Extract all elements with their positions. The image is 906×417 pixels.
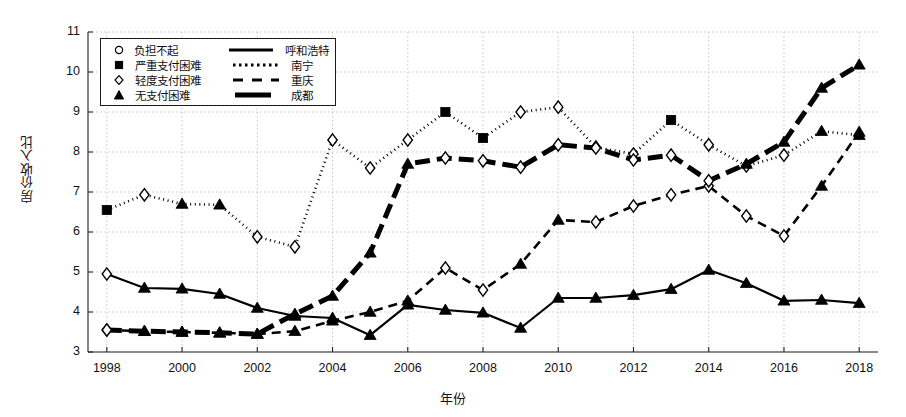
triangle-marker-icon: [112, 89, 126, 101]
data-point-diamond: [102, 268, 111, 280]
y-tick-label: 4: [54, 304, 80, 318]
data-point-diamond: [779, 149, 788, 161]
data-point-square: [478, 133, 487, 142]
legend-linestyle-dashed: [231, 74, 289, 86]
legend-city-label: 呼和浩特: [283, 42, 329, 58]
legend-marker-diamond: [109, 74, 129, 86]
y-tick-label: 10: [54, 64, 80, 78]
legend-category-label: 负担不起: [128, 42, 227, 58]
data-point-diamond: [516, 106, 525, 118]
data-point-diamond: [704, 139, 713, 151]
x-tick-label: 2016: [757, 361, 811, 375]
data-point-diamond: [666, 189, 675, 201]
data-point-triangle: [552, 214, 564, 224]
x-tick-label: 2002: [230, 361, 284, 375]
circle-marker-icon: [112, 44, 126, 56]
thick-line-sample-icon: [231, 89, 281, 101]
data-point-diamond: [140, 189, 149, 201]
x-tick-label: 2004: [306, 361, 360, 375]
legend-city-label: 南宁: [289, 57, 313, 73]
legend-linestyle-solid: [227, 44, 283, 56]
legend-row: 负担不起呼和浩特: [109, 42, 329, 57]
x-tick-label: 2014: [682, 361, 736, 375]
data-point-square: [666, 115, 675, 124]
y-tick-label: 9: [54, 104, 80, 118]
legend: 负担不起呼和浩特严重支付困难南宁轻度支付困难重庆无支付困难成都: [100, 38, 336, 106]
legend-marker-triangle: [109, 89, 129, 101]
data-point-diamond: [365, 162, 374, 174]
legend-row: 轻度支付困难重庆: [109, 72, 329, 87]
legend-category-label: 无支付困难: [129, 87, 231, 103]
data-point-triangle: [703, 264, 715, 274]
data-point-triangle: [327, 290, 339, 300]
y-tick-label: 5: [54, 264, 80, 278]
x-tick-label: 2006: [381, 361, 435, 375]
legend-city-label: 重庆: [289, 72, 313, 88]
x-axis-title: 年份: [0, 388, 906, 407]
data-point-triangle: [853, 59, 865, 69]
data-point-diamond: [403, 134, 412, 146]
data-point-square: [102, 205, 111, 214]
data-point-diamond: [441, 152, 450, 164]
data-point-diamond: [478, 155, 487, 167]
data-point-diamond: [290, 241, 299, 253]
legend-row: 严重支付困难南宁: [109, 57, 329, 72]
series-南宁: [102, 101, 865, 253]
chart-figure: 房价收入比 年份 11109876543 1998200020022004200…: [0, 0, 906, 417]
y-tick-label: 8: [54, 144, 80, 158]
y-tick-label: 11: [54, 24, 80, 38]
solid-line-sample-icon: [227, 44, 277, 56]
data-point-triangle: [816, 125, 828, 135]
data-point-diamond: [478, 284, 487, 296]
legend-category-label: 严重支付困难: [129, 57, 231, 73]
legend-linestyle-dotted: [231, 59, 289, 71]
legend-marker-square: [109, 59, 129, 71]
data-point-triangle: [402, 295, 414, 305]
data-point-diamond: [328, 134, 337, 146]
data-point-triangle: [402, 158, 414, 168]
x-tick-label: 2010: [531, 361, 585, 375]
data-point-diamond: [591, 216, 600, 228]
legend-marker-circle: [109, 44, 128, 56]
y-axis-title: 房价收入比: [20, 135, 40, 203]
y-tick-label: 3: [54, 344, 80, 358]
square-marker-icon: [112, 59, 126, 71]
y-tick-label: 6: [54, 224, 80, 238]
x-tick-label: 2012: [606, 361, 660, 375]
legend-row: 无支付困难成都: [109, 87, 329, 102]
diamond-marker-icon: [112, 74, 126, 86]
data-point-triangle: [214, 199, 226, 209]
x-tick-label: 1998: [80, 361, 134, 375]
dashed-line-sample-icon: [231, 74, 281, 86]
legend-category-label: 轻度支付困难: [129, 72, 231, 88]
series-呼和浩特: [102, 264, 865, 340]
x-tick-label: 2008: [456, 361, 510, 375]
data-point-diamond: [742, 210, 751, 222]
legend-city-label: 成都: [289, 87, 313, 103]
x-tick-label: 2000: [155, 361, 209, 375]
data-point-diamond: [102, 324, 111, 336]
data-point-triangle: [853, 126, 865, 136]
data-point-square: [441, 107, 450, 116]
data-point-triangle: [665, 283, 677, 293]
y-tick-label: 7: [54, 184, 80, 198]
data-point-diamond: [629, 200, 638, 212]
x-tick-label: 2018: [832, 361, 886, 375]
dotted-line-sample-icon: [231, 59, 281, 71]
legend-linestyle-thick: [231, 89, 289, 101]
